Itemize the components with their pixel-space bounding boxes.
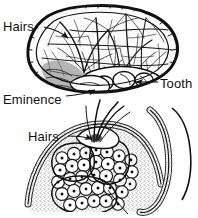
label-tooth: Tooth — [160, 77, 192, 90]
label-hairs-bottom: Hairs — [28, 130, 59, 143]
label-eminence: Eminence — [3, 93, 62, 106]
label-hairs-top: Hairs — [3, 20, 34, 33]
tooth-body-2 — [113, 72, 135, 89]
